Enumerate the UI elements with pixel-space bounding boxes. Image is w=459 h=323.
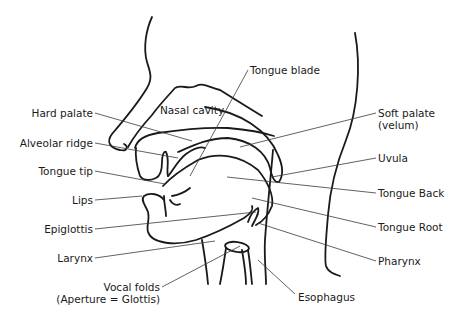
leader-vocal-folds [162,246,240,287]
label-larynx: Larynx [0,252,93,264]
leader-esophagus [258,260,295,294]
label-uvula: Uvula [378,152,408,164]
lower-teeth-outline [164,196,180,216]
leader-epiglottis [95,212,256,229]
leader-pharynx [258,223,376,261]
pharynx-back-wall-outline [265,150,273,284]
leader-tongue-back [227,177,376,193]
label-epiglottis: Epiglottis [0,223,93,235]
leader-uvula [272,158,376,177]
vocal-folds-outline [224,240,249,253]
tongue-outline [163,156,272,225]
tongue-tip-mark [172,188,190,196]
label-nasal-cavity: Nasal cavity [160,104,224,116]
label-hard-palate: Hard palate [0,107,93,119]
leader-tongue-tip [95,171,165,184]
face-profile-outline [109,17,152,150]
larynx-tube-outline [220,248,252,284]
label-tongue-root: Tongue Root [378,221,443,233]
label-velum: (velum) [378,119,419,131]
upper-teeth-outline [136,148,168,180]
soft-palate-outline [178,107,282,182]
label-tongue-back: Tongue Back [378,187,444,199]
leader-tongue-root [252,198,376,227]
label-alveolar-ridge: Alveolar ridge [0,137,93,149]
label-vocal-folds: Vocal folds [0,281,160,293]
neck-front-outline [202,240,208,284]
lower-lip-chin-outline [143,194,253,243]
label-tongue-blade: Tongue blade [250,64,320,76]
label-vocal-folds-aperture: (Aperture = Glottis) [0,293,160,305]
label-lips: Lips [0,194,93,206]
epiglottis-outline [248,208,259,226]
label-soft-palate: Soft palate [378,107,435,119]
back-of-head-outline [325,33,358,276]
upper-lip-outline [168,147,205,176]
leader-larynx [95,241,215,258]
leader-lips [95,196,142,200]
label-pharynx: Pharynx [378,255,421,267]
label-tongue-tip: Tongue tip [0,165,93,177]
label-esophagus: Esophagus [298,291,355,303]
